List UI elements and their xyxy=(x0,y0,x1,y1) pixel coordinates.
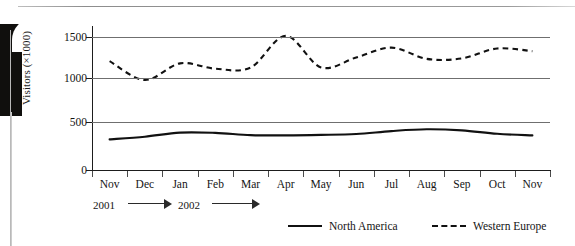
page-top-rule xyxy=(18,6,575,7)
y-tick-label-1000: 1000 xyxy=(47,72,87,84)
x-tick-mark-2 xyxy=(162,171,163,177)
chart-legend: North America Western Europe xyxy=(0,218,575,240)
x-tick-label-jul-8: Jul xyxy=(371,178,411,190)
x-tick-mark-1 xyxy=(127,171,128,177)
x-tick-label-mar-4: Mar xyxy=(231,178,271,190)
series-lines xyxy=(92,26,550,170)
x-tick-mark-5 xyxy=(268,171,269,177)
x-tick-mark-12 xyxy=(515,171,516,177)
x-tick-mark-4 xyxy=(233,171,234,177)
x-tick-label-nov-12: Nov xyxy=(512,178,552,190)
x-tick-label-jun-7: Jun xyxy=(336,178,376,190)
year-label-2001: 2001 xyxy=(93,199,115,211)
x-tick-mark-9 xyxy=(409,171,410,177)
x-tick-label-may-6: May xyxy=(301,178,341,190)
x-tick-label-jan-2: Jan xyxy=(160,178,200,190)
x-tick-mark-13 xyxy=(550,171,551,177)
gridline-1000 xyxy=(92,78,550,79)
x-tick-mark-8 xyxy=(374,171,375,177)
legend-label-north-america: North America xyxy=(329,220,398,232)
series-line-western-europe xyxy=(110,36,533,80)
year-annotation-row: 2001 2002 xyxy=(0,196,575,216)
x-tick-mark-3 xyxy=(198,171,199,177)
x-tick-label-sep-10: Sep xyxy=(442,178,482,190)
line-chart-figure: Visitors (×1000) 1500 1000 500 0 NovDecJ… xyxy=(0,0,575,246)
y-tick-label-0: 0 xyxy=(47,164,87,176)
legend-item-western-europe: Western Europe xyxy=(432,220,546,232)
x-tick-label-apr-5: Apr xyxy=(266,178,306,190)
x-tick-mark-6 xyxy=(303,171,304,177)
legend-label-western-europe: Western Europe xyxy=(473,220,546,232)
series-line-north-america xyxy=(110,129,533,139)
x-axis-line xyxy=(92,170,551,171)
legend-dashed-line-icon xyxy=(432,225,466,227)
x-tick-label-nov-0: Nov xyxy=(90,178,130,190)
plot-area xyxy=(92,26,550,170)
legend-solid-line-icon xyxy=(288,225,322,227)
legend-item-north-america: North America xyxy=(288,220,398,232)
y-tick-label-500: 500 xyxy=(47,116,87,128)
x-tick-mark-10 xyxy=(444,171,445,177)
gridline-500 xyxy=(92,122,550,123)
x-tick-mark-11 xyxy=(480,171,481,177)
x-tick-label-aug-9: Aug xyxy=(407,178,447,190)
y-axis-title: Visitors (×1000) xyxy=(20,8,32,128)
year-label-2002: 2002 xyxy=(178,199,200,211)
x-tick-mark-7 xyxy=(339,171,340,177)
gridline-1500 xyxy=(92,37,550,38)
x-tick-label-feb-3: Feb xyxy=(195,178,235,190)
y-tick-label-1500: 1500 xyxy=(47,31,87,43)
x-tick-label-oct-11: Oct xyxy=(477,178,517,190)
x-tick-mark-0 xyxy=(92,171,93,177)
x-tick-label-dec-1: Dec xyxy=(125,178,165,190)
